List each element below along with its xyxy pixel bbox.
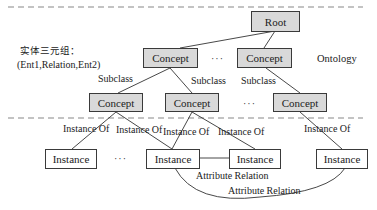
root-node-label: Root (265, 16, 286, 28)
instance-node-2: Instance (146, 149, 200, 169)
concept-label: Concept (98, 97, 135, 109)
entity-triple-caption: 实体三元组： (20, 46, 80, 56)
subclass-label-3: Subclass (241, 76, 276, 86)
instance-label: Instance (155, 153, 192, 165)
instance-of-label-5: Instance Of (304, 124, 350, 134)
instance-node-1: Instance (45, 149, 97, 169)
concept-label: Concept (282, 97, 319, 109)
concept-label: Concept (174, 97, 211, 109)
instance-label: Instance (237, 153, 274, 165)
concept-node-l1-left: Concept (143, 48, 198, 68)
concept-label: Concept (246, 52, 283, 64)
attribute-relation-label-1: Attribute Relation (196, 171, 269, 181)
instance-node-4: Instance (316, 149, 368, 169)
instance-of-label-1: Instance Of (63, 124, 109, 134)
concept-node-l1-right: Concept (237, 48, 292, 68)
instance-of-label-4: Instance Of (218, 127, 264, 137)
instance-label: Instance (324, 153, 361, 165)
subclass-label-1: Subclass (98, 74, 133, 84)
concept-node-l2-right: Concept (273, 93, 327, 112)
concept-label: Concept (152, 52, 189, 64)
attribute-relation-label-2: Attribute Relation (228, 186, 301, 196)
instance-label: Instance (53, 153, 90, 165)
ellipsis-instances: ··· (114, 154, 127, 164)
ellipsis-l2: ··· (243, 99, 256, 109)
concept-node-l2-middle: Concept (165, 93, 219, 112)
instance-node-3: Instance (229, 149, 281, 169)
subclass-label-2: Subclass (191, 76, 226, 86)
instance-of-label-2: Instance Of (116, 125, 162, 135)
instance-of-label-3: Instance Of (163, 127, 209, 137)
entity-triple-format: (Ent1,Relation,Ent2) (17, 60, 100, 70)
concept-node-l2-left: Concept (89, 93, 143, 112)
root-node: Root (251, 11, 300, 32)
ellipsis-l1: ··· (211, 54, 224, 64)
ontology-label: Ontology (317, 54, 357, 65)
